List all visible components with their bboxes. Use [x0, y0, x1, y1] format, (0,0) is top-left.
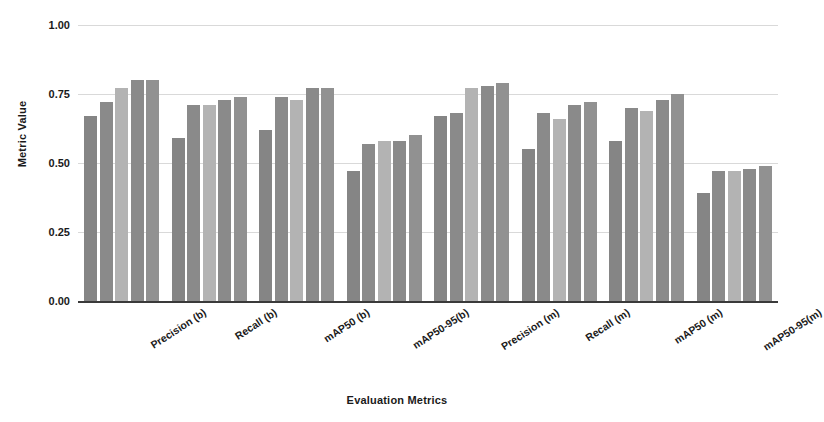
- y-axis-tick-labels: 1.000.750.500.250.00: [26, 25, 70, 301]
- y-axis-tick-label: 0.25: [26, 226, 70, 238]
- x-axis-tick-label: Precision (b): [148, 306, 208, 351]
- x-axis-tick-label: mAP50-95(b): [411, 306, 471, 351]
- y-axis-tick-label: 1.00: [26, 19, 70, 31]
- x-axis-title: Evaluation Metrics: [0, 394, 794, 406]
- x-axis-tick-label: Recall (b): [233, 306, 279, 342]
- x-axis-tick-label: Precision (m): [498, 306, 560, 352]
- y-axis-tick-label: 0.75: [26, 88, 70, 100]
- x-axis-tick-label: mAP50-95(m): [761, 306, 824, 353]
- y-axis-tick-label: 0.00: [26, 295, 70, 307]
- x-axis-tick-label: Recall (m): [583, 306, 632, 343]
- x-axis-tick-label: mAP50 (b): [321, 306, 371, 344]
- y-axis-tick-label: 0.50: [26, 157, 70, 169]
- x-axis-tick-label: mAP50 (m): [672, 306, 725, 346]
- x-axis-tick-labels: Precision (b)Recall (b)mAP50 (b)mAP50-95…: [78, 0, 778, 422]
